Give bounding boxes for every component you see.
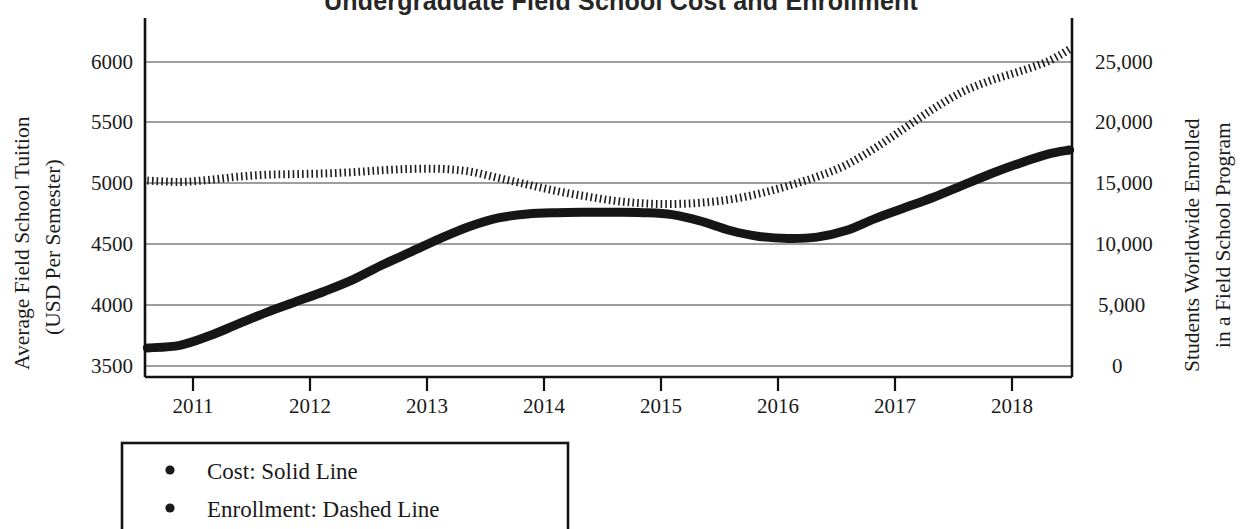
legend-label-enrollment: Enrollment: Dashed Line [207, 497, 440, 522]
right-axis-title-line2: in a Field School Program [1211, 122, 1235, 348]
x-axis-ticks [193, 377, 1012, 391]
right-tick-label-0: 0 [1112, 354, 1123, 378]
x-tick-label-2016: 2016 [757, 394, 799, 418]
chart-legend[interactable]: Cost: Solid Line Enrollment: Dashed Line [122, 443, 568, 529]
x-tick-label-2018: 2018 [991, 394, 1033, 418]
legend-bullet-icon [165, 503, 174, 512]
right-axis-title-line1: Students Worldwide Enrolled [1180, 118, 1204, 372]
legend-item-enrollment[interactable]: Enrollment: Dashed Line [165, 497, 439, 522]
right-axis-tick-labels: 25,000 20,000 15,000 10,000 5,000 0 [1095, 50, 1153, 378]
left-axis-tick-labels: 6000 5500 5000 4500 4000 3500 [91, 50, 133, 378]
right-tick-label-15000: 15,000 [1095, 171, 1153, 195]
left-tick-label-4000: 4000 [91, 293, 133, 317]
chart-figure: Undergraduate Field School Cost and Enro… [0, 0, 1242, 529]
legend-label-cost: Cost: Solid Line [207, 459, 358, 484]
x-tick-label-2015: 2015 [640, 394, 682, 418]
left-axis-title: Average Field School Tuition (USD Per Se… [10, 116, 65, 370]
right-axis-title: Students Worldwide Enrolled in a Field S… [1180, 118, 1235, 372]
x-axis-tick-labels: 2011 2012 2013 2014 2015 2016 2017 2018 [172, 394, 1033, 418]
x-tick-label-2014: 2014 [523, 394, 566, 418]
x-tick-label-2013: 2013 [406, 394, 448, 418]
left-axis-title-line1: Average Field School Tuition [10, 116, 34, 370]
left-tick-label-3500: 3500 [91, 354, 133, 378]
right-tick-label-25000: 25,000 [1095, 50, 1153, 74]
x-tick-label-2017: 2017 [874, 394, 916, 418]
right-tick-label-5000: 5,000 [1098, 293, 1145, 317]
chart-plot-area: 6000 5500 5000 4500 4000 3500 25,000 20,… [0, 0, 1242, 529]
series-line-cost [147, 150, 1069, 348]
data-series-group [147, 49, 1069, 348]
right-tick-label-10000: 10,000 [1095, 232, 1153, 256]
left-tick-label-6000: 6000 [91, 50, 133, 74]
left-axis-title-line2: (USD Per Semester) [41, 159, 65, 335]
x-tick-label-2012: 2012 [289, 394, 331, 418]
series-line-enrollment [147, 49, 1069, 204]
left-tick-label-5000: 5000 [91, 171, 133, 195]
left-tick-label-4500: 4500 [91, 232, 133, 256]
legend-bullet-icon [165, 465, 174, 474]
x-tick-label-2011: 2011 [172, 394, 213, 418]
right-tick-label-20000: 20,000 [1095, 110, 1153, 134]
left-tick-label-5500: 5500 [91, 110, 133, 134]
